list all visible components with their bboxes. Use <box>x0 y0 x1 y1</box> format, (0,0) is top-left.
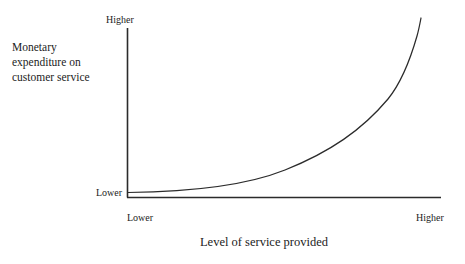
x-axis-title: Level of service provided <box>164 234 364 251</box>
x-axis-tick-higher: Higher <box>400 211 460 224</box>
x-axis-tick-lower: Lower <box>110 211 170 224</box>
y-axis-title: Monetary expenditure on customer service <box>12 40 122 86</box>
y-axis-tick-lower: Lower <box>78 186 122 199</box>
chart-figure: Monetary expenditure on customer service… <box>0 0 465 264</box>
exponential-cost-curve <box>128 18 421 193</box>
y-axis-tick-higher: Higher <box>88 13 152 26</box>
